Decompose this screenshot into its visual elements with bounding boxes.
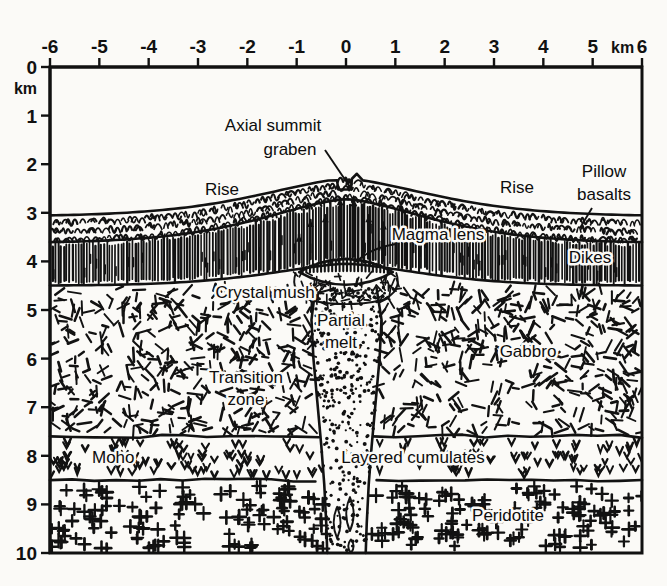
partial-melt-stipple [319,331,322,334]
gabbro-dash [633,352,639,356]
gabbro-dash [194,379,201,389]
cumulate-v-mark [107,467,114,474]
gabbro-dash [627,293,631,298]
gabbro-dash [306,394,312,398]
label-moho: Moho [92,448,135,467]
gabbro-dash [186,324,195,335]
gabbro-dash [497,335,503,337]
gabbro-dash [508,419,509,425]
partial-melt-stipple [348,500,351,503]
gabbro-dash [303,350,311,354]
gabbro-dash [511,304,523,306]
crystal-mush-dash [338,274,340,281]
gabbro-dash [579,305,589,311]
partial-melt-stipple [353,401,356,404]
gabbro-dash [577,306,579,317]
partial-melt-stipple [351,514,354,517]
gabbro-dash [386,328,394,338]
gabbro-dash [309,355,317,357]
gabbro-dash [241,347,250,352]
gabbro-dash [143,392,148,395]
pillow-arc [107,220,114,223]
gabbro-dash [451,282,454,294]
gabbro-dash [422,289,429,296]
gabbro-dash [73,429,80,432]
gabbro-dash [169,322,171,328]
y-tick-label: 0 [26,57,37,78]
label-transition-zone-line2: zone [228,390,265,409]
gabbro-dash [83,369,89,372]
gabbro-dash [288,373,291,383]
label-dikes: Dikes [569,248,612,267]
gabbro-dash [506,286,511,292]
gabbro-dash [606,375,611,380]
gabbro-dash [160,298,171,302]
partial-melt-stipple [329,466,332,469]
gabbro-dash [611,401,617,402]
gabbro-dash [392,320,403,323]
gabbro-dash [426,358,427,366]
gabbro-dash [134,424,143,426]
pillow-arc [320,186,325,190]
partial-melt-stipple [320,343,323,346]
gabbro-dash [431,357,436,358]
gabbro-dash [181,408,188,409]
gabbro-dash [536,293,544,294]
pillow-squiggle [538,224,545,230]
gabbro-dash [55,288,64,295]
gabbro-dash [83,310,94,313]
label-peridotite: Peridotite [472,506,544,525]
partial-melt-stipple [375,322,378,325]
gabbro-dash [197,396,201,400]
pillow-arc [287,199,294,204]
gabbro-dash [136,411,139,417]
gabbro-dash [207,333,214,338]
gabbro-dash [561,408,565,412]
partial-melt-stipple [326,381,329,384]
partial-melt-stipple [355,513,359,517]
gabbro-dash [379,390,383,398]
pillow-squiggle [360,183,365,188]
x-tick-label: 3 [489,36,500,57]
pillow-arc [114,219,120,224]
gabbro-dash [572,335,585,339]
pillow-arc [154,224,162,229]
partial-melt-stipple [338,370,342,374]
cumulate-v-mark [466,468,472,475]
gabbro-dash [495,417,501,430]
gabbro-dash [51,352,58,355]
crystal-mush-dash [351,303,352,309]
gabbro-dash [417,397,418,409]
partial-melt-stipple [350,352,353,355]
partial-melt-stipple [335,447,339,451]
partial-melt-stipple [344,541,347,544]
y-tick-label: 5 [26,300,37,321]
gabbro-dash [504,328,505,341]
gabbro-dash [269,308,274,317]
gabbro-dash [150,421,152,433]
partial-melt-stipple [362,534,365,537]
gabbro-dash [129,405,130,417]
label-magma-lens: Magma lens [392,225,485,244]
gabbro-dash [78,422,92,424]
x-tick-label: 5 [587,36,598,57]
gabbro-cumulate-boundary-left [50,435,319,438]
partial-melt-stipple [337,506,341,510]
cumulate-peridotite-boundary-right [377,480,642,482]
partial-melt-stipple [338,487,342,491]
gabbro-dash [493,415,502,416]
gabbro-dash [552,317,553,323]
pillow-arc [200,209,206,214]
pillow-squiggle [221,205,228,210]
y-tick-label: 4 [26,251,37,272]
cumulate-v-mark [577,469,583,474]
gabbro-dash [574,408,577,417]
pillow-arc [585,227,591,230]
gabbro-dash [632,399,634,405]
cumulate-v-mark [602,459,607,464]
gabbro-dash [310,380,319,381]
gabbro-dash [552,429,553,437]
partial-melt-stipple [326,407,328,409]
gabbro-dash [114,321,119,326]
gabbro-dash [546,286,555,295]
